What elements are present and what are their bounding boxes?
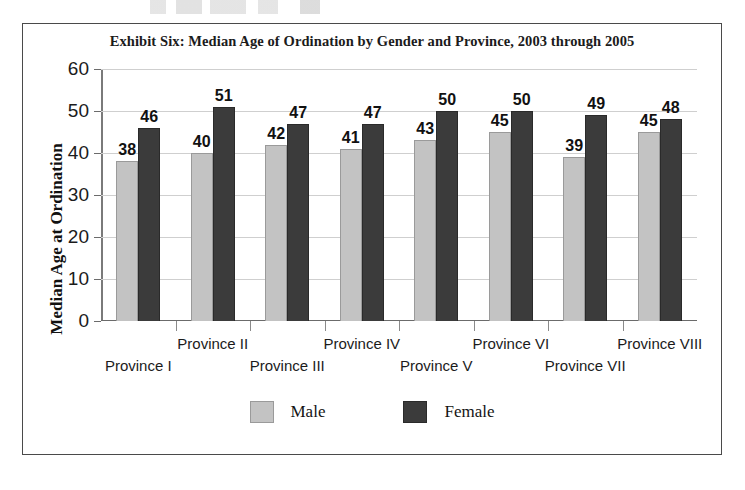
- bar-value-label: 41: [342, 129, 360, 147]
- x-category-label-7: Province VII: [545, 357, 626, 374]
- bar-female-2: 51: [213, 107, 235, 321]
- x-group-tick: [548, 321, 549, 331]
- y-tick-label: 60: [68, 58, 89, 80]
- x-category-label-6: Province VI: [472, 335, 549, 352]
- chart-legend: Male Female: [23, 401, 721, 423]
- bar-male-7: 39: [563, 157, 585, 321]
- y-tick-mark: [94, 195, 101, 196]
- gridline: [101, 69, 697, 70]
- y-tick-label: 10: [68, 268, 89, 290]
- x-category-label-3: Province III: [250, 357, 325, 374]
- y-tick-mark: [94, 237, 101, 238]
- y-tick-mark: [94, 69, 101, 70]
- bar-female-8: 48: [660, 119, 682, 321]
- legend-swatch-male-icon: [250, 401, 274, 423]
- y-tick-mark: [94, 153, 101, 154]
- bar-value-label: 46: [140, 108, 158, 126]
- y-tick-mark: [94, 111, 101, 112]
- bar-male-2: 40: [191, 153, 213, 321]
- bar-value-label: 38: [118, 141, 136, 159]
- bar-value-label: 40: [193, 133, 211, 151]
- bar-female-4: 47: [362, 124, 384, 321]
- bar-male-8: 45: [638, 132, 660, 321]
- x-group-tick: [623, 321, 624, 331]
- y-tick-label: 20: [68, 226, 89, 248]
- y-tick-mark: [94, 321, 101, 322]
- chart-title: Exhibit Six: Median Age of Ordination by…: [23, 33, 721, 50]
- x-group-tick: [474, 321, 475, 331]
- legend-label-female: Female: [444, 402, 494, 422]
- x-group-tick: [399, 321, 400, 331]
- bar-female-3: 47: [287, 124, 309, 321]
- y-tick-label: 40: [68, 142, 89, 164]
- bar-value-label: 45: [491, 112, 509, 130]
- x-group-tick: [325, 321, 326, 331]
- legend-swatch-female-icon: [403, 401, 427, 423]
- bar-value-label: 48: [662, 99, 680, 117]
- bar-male-4: 41: [340, 149, 362, 321]
- bar-value-label: 51: [215, 87, 233, 105]
- bar-female-1: 46: [138, 128, 160, 321]
- x-category-label-1: Province I: [105, 357, 172, 374]
- x-group-tick: [176, 321, 177, 331]
- bar-value-label: 50: [513, 91, 531, 109]
- y-axis-title: Median Age at Ordination: [47, 143, 67, 334]
- bar-value-label: 47: [289, 104, 307, 122]
- plot-area: 0102030405060 38464051424741474350455039…: [101, 69, 697, 321]
- bar-male-1: 38: [116, 161, 138, 321]
- y-tick-label: 0: [78, 310, 89, 332]
- bar-value-label: 39: [565, 137, 583, 155]
- y-tick-mark: [94, 279, 101, 280]
- bar-value-label: 50: [438, 91, 456, 109]
- legend-item-male[interactable]: Male: [250, 401, 326, 423]
- bar-value-label: 43: [416, 120, 434, 138]
- bar-male-5: 43: [414, 140, 436, 321]
- y-tick-label: 50: [68, 100, 89, 122]
- legend-label-male: Male: [291, 402, 326, 422]
- x-category-label-4: Province IV: [323, 335, 400, 352]
- bar-male-6: 45: [489, 132, 511, 321]
- gridline: [101, 111, 697, 112]
- bar-value-label: 49: [587, 95, 605, 113]
- bar-female-6: 50: [511, 111, 533, 321]
- chart-figure-frame: Exhibit Six: Median Age of Ordination by…: [22, 23, 722, 455]
- bar-value-label: 47: [364, 104, 382, 122]
- x-group-tick: [250, 321, 251, 331]
- bar-female-7: 49: [585, 115, 607, 321]
- y-tick-label: 30: [68, 184, 89, 206]
- bar-value-label: 45: [640, 112, 658, 130]
- x-category-label-2: Province II: [177, 335, 248, 352]
- bar-male-3: 42: [265, 145, 287, 321]
- bar-female-5: 50: [436, 111, 458, 321]
- bar-value-label: 42: [267, 125, 285, 143]
- x-category-label-8: Province VIII: [617, 335, 702, 352]
- x-category-label-5: Province V: [400, 357, 473, 374]
- scan-artifact: [150, 0, 360, 14]
- legend-item-female[interactable]: Female: [403, 401, 494, 423]
